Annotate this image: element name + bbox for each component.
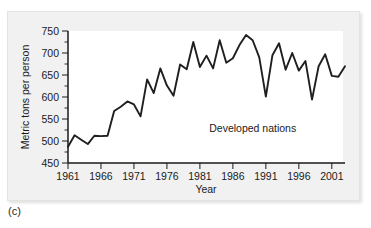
x-tick-label: 1966 [89, 170, 113, 182]
x-tick-label: 1991 [254, 170, 278, 182]
x-axis-tick-labels: 196119661971197619811986199119962001 [56, 170, 343, 182]
axes [62, 31, 345, 169]
x-tick-label: 1961 [56, 170, 80, 182]
series-line-developed-nations [68, 35, 345, 147]
y-tick-label: 750 [41, 25, 59, 37]
y-axis-ticks [62, 31, 68, 163]
y-tick-label: 500 [41, 135, 59, 147]
x-tick-label: 1981 [188, 170, 212, 182]
panel-letter-label: (c) [8, 205, 21, 217]
y-axis-tick-labels: 450500550600650700750 [41, 25, 59, 169]
x-tick-label: 1996 [287, 170, 311, 182]
x-tick-label: 1986 [221, 170, 245, 182]
y-tick-label: 550 [41, 113, 59, 125]
y-tick-label: 450 [41, 157, 59, 169]
y-tick-label: 650 [41, 69, 59, 81]
line-chart: 450500550600650700750 196119661971197619… [0, 0, 371, 228]
x-axis-ticks [68, 163, 332, 169]
x-tick-label: 2001 [320, 170, 344, 182]
x-axis-title: Year [195, 183, 217, 195]
figure-root: 450500550600650700750 196119661971197619… [0, 0, 371, 228]
x-tick-label: 1971 [122, 170, 146, 182]
x-tick-label: 1976 [155, 170, 179, 182]
series-annotation-developed-nations: Developed nations [209, 122, 296, 134]
y-axis-title: Metric tons per person [19, 45, 31, 150]
y-tick-label: 700 [41, 47, 59, 59]
y-tick-label: 600 [41, 91, 59, 103]
